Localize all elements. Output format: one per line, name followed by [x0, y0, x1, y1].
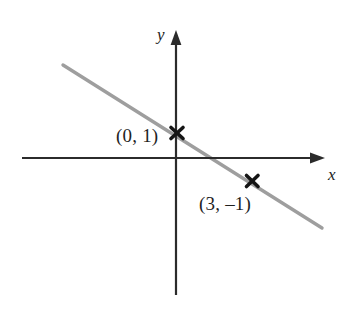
- point-label-3-minus1: (3, –1): [199, 194, 251, 213]
- graph-figure: y x (0, 1) (3, –1): [0, 0, 348, 312]
- plotted-line: [63, 65, 322, 228]
- coordinate-plane-svg: [0, 0, 348, 312]
- point-label-0-1: (0, 1): [116, 126, 158, 145]
- y-axis-arrowhead: [171, 30, 182, 45]
- x-axis-label: x: [328, 166, 336, 183]
- y-axis-label: y: [157, 26, 165, 43]
- x-axis-arrowhead: [310, 153, 325, 164]
